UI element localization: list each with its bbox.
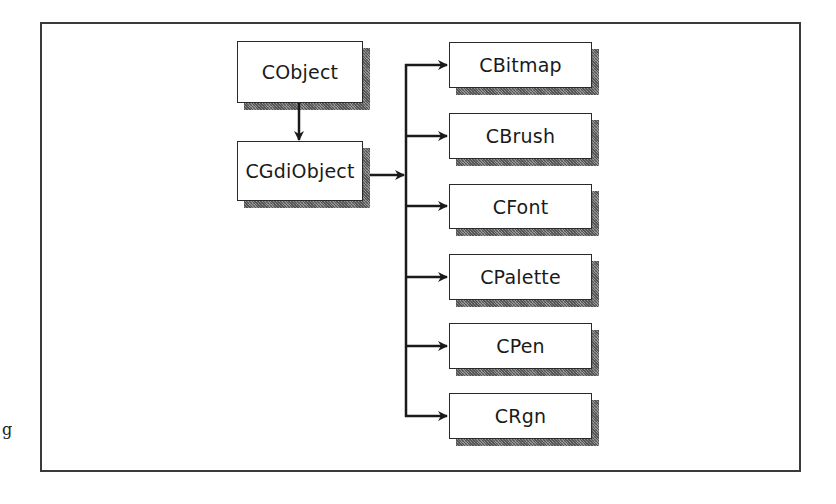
node-cpen: CPen: [449, 323, 592, 369]
node-cbitmap: CBitmap: [449, 42, 592, 88]
node-label: CBitmap: [479, 54, 562, 76]
node-label: CFont: [493, 196, 549, 218]
node-label: CBrush: [486, 125, 555, 147]
node-crgn: CRgn: [449, 393, 592, 439]
node-label: CRgn: [495, 405, 546, 427]
node-label: CPalette: [480, 266, 561, 288]
node-cpalette: CPalette: [449, 254, 592, 300]
margin-text-fragment: g: [2, 420, 12, 442]
node-cgdiobject: CGdiObject: [237, 141, 363, 201]
node-cobject: CObject: [237, 41, 363, 103]
diagram-frame: [40, 22, 801, 472]
node-label: CGdiObject: [245, 160, 354, 182]
node-label: CPen: [496, 335, 545, 357]
node-label: CObject: [262, 61, 339, 83]
node-cfont: CFont: [449, 184, 592, 229]
node-cbrush: CBrush: [449, 113, 592, 159]
